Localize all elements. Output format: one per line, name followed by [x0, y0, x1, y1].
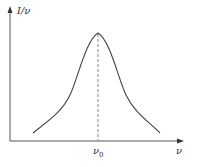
y-axis-arrow-icon: [8, 6, 13, 13]
x-axis-arrow-icon: [177, 139, 184, 144]
y-axis-label: I/ν: [17, 5, 30, 16]
profile-curve: [33, 33, 160, 133]
chart-canvas: [0, 0, 198, 167]
x-tick-subscript: 0: [99, 151, 103, 159]
x-axis-label: ν: [176, 145, 182, 156]
x-tick-nu0: ν0: [93, 145, 104, 159]
